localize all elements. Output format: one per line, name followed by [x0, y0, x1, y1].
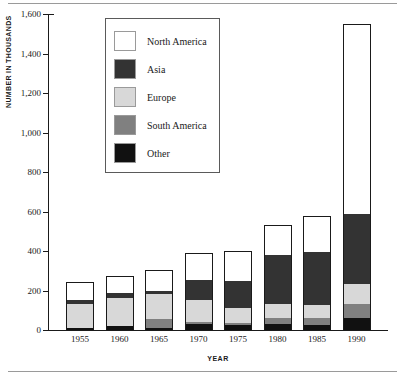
y-axis-tick-label: 1,000 — [21, 128, 41, 137]
bar-segment[interactable] — [66, 300, 94, 304]
legend-item[interactable]: South America — [114, 111, 219, 139]
y-axis-tick — [43, 330, 49, 331]
bar-segment[interactable] — [185, 322, 213, 324]
bar-segment[interactable] — [145, 319, 173, 328]
bar-segment[interactable] — [264, 324, 292, 330]
y-axis-title: NUMBER IN THOUSANDS — [5, 15, 12, 108]
bar-segment[interactable] — [145, 328, 173, 330]
y-axis-tick — [43, 172, 49, 173]
x-axis-title: YEAR — [48, 355, 388, 362]
y-axis-tick-label: 200 — [28, 286, 42, 295]
y-axis-tick-label: 1,400 — [21, 49, 41, 58]
x-axis-tick-label: 1990 — [333, 334, 381, 344]
bar-segment[interactable] — [343, 284, 371, 305]
bar-segment[interactable] — [185, 280, 213, 301]
bar-segment[interactable] — [343, 318, 371, 330]
bar-segment[interactable] — [106, 276, 134, 293]
x-axis-line — [48, 330, 388, 331]
bar-segment[interactable] — [145, 294, 173, 319]
bar-segment[interactable] — [343, 304, 371, 317]
bar-segment[interactable] — [185, 324, 213, 330]
bar-stack[interactable] — [264, 225, 292, 330]
legend-item-label: South America — [147, 120, 207, 131]
bar-segment[interactable] — [66, 304, 94, 327]
chart-legend: North AmericaAsiaEuropeSouth AmericaOthe… — [105, 18, 220, 173]
bar-stack[interactable] — [106, 276, 134, 330]
y-axis-tick — [43, 93, 49, 94]
legend-item[interactable]: Asia — [114, 55, 219, 83]
bar-segment[interactable] — [303, 318, 331, 325]
bar-stack[interactable] — [343, 24, 371, 330]
y-axis-tick-label: 1,200 — [21, 89, 41, 98]
bar-segment[interactable] — [106, 326, 134, 330]
legend-swatch-icon — [114, 59, 136, 79]
bar-stack[interactable] — [185, 253, 213, 330]
y-axis-tick-label: 1,600 — [21, 10, 41, 19]
bar-segment[interactable] — [145, 270, 173, 291]
bar-segment[interactable] — [66, 328, 94, 330]
y-axis-tick-label: 800 — [28, 168, 42, 177]
y-axis-tick-label: 0 — [37, 326, 42, 335]
bar-segment[interactable] — [145, 291, 173, 295]
bar-segment[interactable] — [224, 308, 252, 322]
bar-segment[interactable] — [106, 298, 134, 326]
y-axis-tick-label: 400 — [28, 247, 42, 256]
bar-segment[interactable] — [264, 255, 292, 304]
y-axis-tick — [43, 133, 49, 134]
y-axis-tick — [43, 54, 49, 55]
legend-item-label: Europe — [147, 92, 176, 103]
bar-stack[interactable] — [145, 270, 173, 330]
bar-segment[interactable] — [343, 24, 371, 215]
bar-segment[interactable] — [343, 214, 371, 283]
stacked-bar-chart-figure: NUMBER IN THOUSANDS 02004006008001,0001,… — [0, 0, 405, 382]
legend-item-label: North America — [147, 36, 207, 47]
bar-segment[interactable] — [264, 304, 292, 318]
bar-segment[interactable] — [224, 325, 252, 330]
y-axis-tick — [43, 212, 49, 213]
legend-item[interactable]: Europe — [114, 83, 219, 111]
bar-segment[interactable] — [303, 252, 331, 305]
legend-swatch-icon — [114, 143, 136, 163]
bar-segment[interactable] — [264, 318, 292, 324]
legend-swatch-icon — [114, 31, 136, 51]
legend-item[interactable]: Other — [114, 139, 219, 167]
legend-swatch-icon — [114, 115, 136, 135]
legend-item[interactable]: North America — [114, 27, 219, 55]
bar-segment[interactable] — [66, 282, 94, 301]
bar-segment[interactable] — [224, 281, 252, 309]
y-axis-tick — [43, 251, 49, 252]
bar-stack[interactable] — [66, 282, 94, 330]
bar-segment[interactable] — [303, 325, 331, 330]
bar-segment[interactable] — [224, 251, 252, 281]
bar-segment[interactable] — [106, 293, 134, 298]
bar-stack[interactable] — [224, 251, 252, 330]
y-axis-tick — [43, 14, 49, 15]
bar-segment[interactable] — [185, 300, 213, 321]
bar-segment[interactable] — [303, 216, 331, 252]
legend-item-label: Other — [147, 148, 170, 159]
bar-segment[interactable] — [224, 323, 252, 325]
bottom-divider-rule — [8, 371, 397, 372]
bar-segment[interactable] — [303, 305, 331, 318]
y-axis-tick-label: 600 — [28, 207, 42, 216]
top-divider-rule — [8, 3, 397, 4]
bar-stack[interactable] — [303, 216, 331, 330]
legend-swatch-icon — [114, 87, 136, 107]
bar-segment[interactable] — [185, 253, 213, 280]
legend-item-label: Asia — [147, 64, 165, 75]
y-axis-tick — [43, 291, 49, 292]
bar-segment[interactable] — [264, 225, 292, 255]
